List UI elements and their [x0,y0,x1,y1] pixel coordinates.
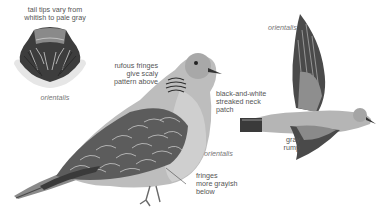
tail-fan-illustration [14,27,86,88]
fringes-below-note: fringes more grayish below [196,172,256,196]
gray-rump-line-2: rump [272,144,300,152]
gray-rump-note: gray rump [272,136,300,152]
rufous-fringes-line-3: pattern above [100,78,158,86]
neck-patch-line-3: patch [216,106,286,114]
neck-patch-note: black-and-white streaked neck patch [216,90,286,114]
perched-subspecies-label: orientalis [204,150,254,158]
rufous-fringes-note: rufous fringes give scaly pattern above [100,62,158,86]
tail-tips-line-2: whitish to pale gray [16,14,94,22]
plate-illustrations [0,0,382,211]
tail-subspecies-label: orientalis [30,94,80,102]
fringes-below-line-3: below [196,188,256,196]
tail-tips-note: tail tips vary from whitish to pale gray [16,6,94,22]
flying-dove-illustration [240,14,376,160]
flight-subspecies-label: orientalis [268,24,308,32]
